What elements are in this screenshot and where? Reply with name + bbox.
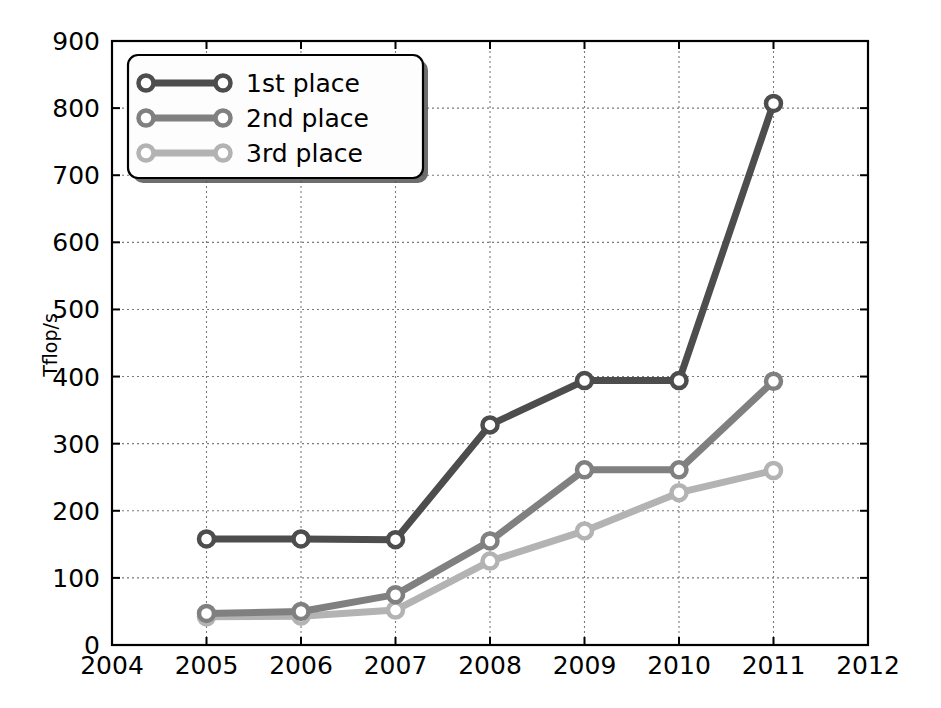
- x-tick-label: 2008: [458, 651, 522, 680]
- legend-marker-end: [216, 111, 231, 126]
- x-tick-label: 2009: [553, 651, 617, 680]
- x-tick-label: 2006: [269, 651, 333, 680]
- data-point-marker: [672, 373, 687, 388]
- y-axis-label: Tflop/s: [39, 313, 61, 378]
- y-tick-label: 200: [52, 497, 100, 526]
- x-tick-label: 2004: [80, 651, 144, 680]
- data-point-marker: [388, 587, 403, 602]
- legend-marker-start: [139, 111, 154, 126]
- data-point-marker: [388, 532, 403, 547]
- line-chart: 0100200300400500600700800900 20042005200…: [0, 0, 941, 708]
- data-point-marker: [199, 606, 214, 621]
- legend-label: 1st place: [246, 69, 360, 98]
- x-tick-label: 2011: [742, 651, 806, 680]
- data-point-marker: [577, 373, 592, 388]
- y-tick-label: 800: [52, 94, 100, 123]
- x-tick-label: 2007: [364, 651, 428, 680]
- data-point-marker: [672, 485, 687, 500]
- x-axis-tick-labels: 200420052006200720082009201020112012: [80, 651, 900, 680]
- data-point-marker: [577, 462, 592, 477]
- y-tick-label: 700: [52, 161, 100, 190]
- data-point-marker: [766, 374, 781, 389]
- legend-label: 2nd place: [246, 104, 369, 133]
- data-point-marker: [483, 533, 498, 548]
- legend-marker-start: [139, 76, 154, 91]
- legend-label: 3rd place: [246, 139, 363, 168]
- x-tick-label: 2010: [647, 651, 711, 680]
- data-point-marker: [766, 463, 781, 478]
- legend-marker-start: [139, 146, 154, 161]
- y-tick-label: 600: [52, 228, 100, 257]
- data-point-marker: [294, 531, 309, 546]
- y-tick-label: 300: [52, 430, 100, 459]
- y-tick-label: 900: [52, 27, 100, 56]
- data-point-marker: [483, 417, 498, 432]
- legend-marker-end: [216, 146, 231, 161]
- data-point-marker: [388, 603, 403, 618]
- data-point-marker: [672, 462, 687, 477]
- data-point-marker: [766, 96, 781, 111]
- x-tick-label: 2005: [175, 651, 239, 680]
- legend-marker-end: [216, 76, 231, 91]
- y-tick-label: 100: [52, 564, 100, 593]
- data-point-marker: [199, 531, 214, 546]
- chart-figure: 0100200300400500600700800900 20042005200…: [0, 0, 941, 708]
- data-point-marker: [483, 554, 498, 569]
- chart-legend[interactable]: 1st place2nd place3rd place: [128, 55, 428, 183]
- data-point-marker: [294, 604, 309, 619]
- x-tick-label: 2012: [836, 651, 900, 680]
- data-point-marker: [577, 523, 592, 538]
